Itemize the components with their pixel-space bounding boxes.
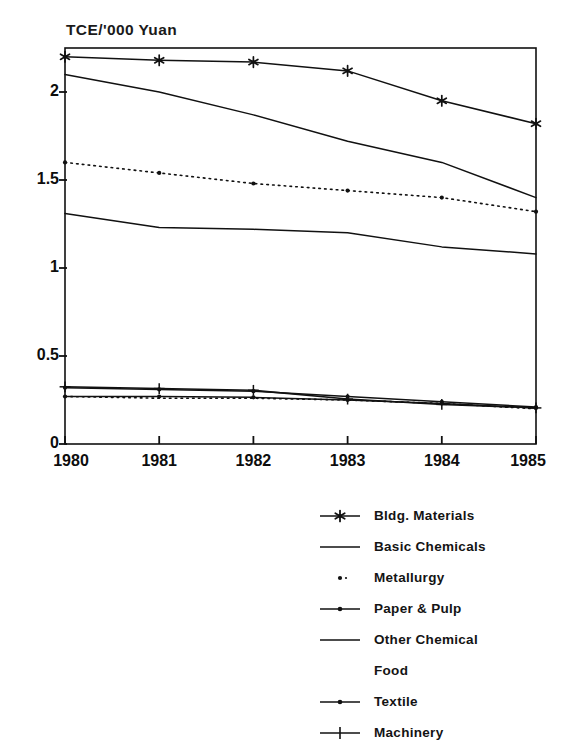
dot-marker	[157, 171, 161, 175]
legend-line-star-marker-icon	[318, 506, 362, 526]
x-tick-label: 1984	[424, 452, 460, 470]
plus-marker	[531, 403, 542, 414]
legend-item: Paper & Pulp	[318, 593, 580, 624]
chart-figure: TCE/'000 Yuan 21.510.50 1980198119821983…	[0, 0, 581, 753]
plus-marker	[60, 381, 71, 392]
plus-marker	[154, 383, 165, 394]
y-axis-tick-labels: 21.510.50	[0, 0, 59, 753]
series-line-other-chemical	[65, 213, 536, 253]
legend-item: Machinery	[318, 717, 580, 748]
legend-line-plain-icon	[318, 537, 362, 557]
y-tick-label: 1.5	[37, 170, 59, 188]
legend-item: Metallurgy	[318, 562, 580, 593]
y-axis-title: TCE/'000 Yuan	[66, 21, 177, 39]
x-tick-label: 1980	[53, 452, 89, 470]
legend-dot-marker-icon	[318, 568, 362, 588]
dot-marker	[346, 188, 350, 192]
y-tick-label: 1	[50, 258, 59, 276]
legend-item: Food	[318, 655, 580, 686]
legend-label: Other Chemical	[374, 632, 478, 647]
legend-item: Textile	[318, 686, 580, 717]
y-tick-label: 0	[50, 434, 59, 452]
dot-marker	[440, 196, 444, 200]
dot-marker	[534, 210, 538, 214]
legend-item: Bldg. Materials	[318, 500, 580, 531]
x-tick-label: 1981	[141, 452, 177, 470]
legend-item: Other Chemical	[318, 624, 580, 655]
plot-lines	[65, 48, 536, 444]
chart-legend: Bldg. MaterialsBasic ChemicalsMetallurgy…	[318, 500, 580, 748]
plus-marker	[342, 394, 353, 405]
y-tick-label: 2	[50, 82, 59, 100]
x-tick-label: 1982	[236, 452, 272, 470]
dot-marker	[63, 394, 67, 398]
dot-marker	[157, 394, 161, 398]
legend-line-dot-marker-icon	[318, 692, 362, 712]
legend-line-dot-marker-icon	[318, 599, 362, 619]
series-line-metallurgy	[65, 162, 536, 211]
plus-marker	[436, 399, 447, 410]
x-tick-label: 1983	[330, 452, 366, 470]
legend-label: Basic Chemicals	[374, 539, 486, 554]
legend-line-plain-icon	[318, 630, 362, 650]
legend-no-key-icon	[318, 661, 362, 681]
x-tick-label: 1985	[510, 452, 546, 470]
legend-label: Food	[374, 663, 408, 678]
series-line-bldg-materials	[65, 57, 536, 124]
legend-line-plus-marker-icon	[318, 723, 362, 743]
x-axis-tick-labels: 198019811982198319841985	[0, 452, 581, 478]
plus-marker	[248, 385, 259, 396]
legend-label: Machinery	[374, 725, 443, 740]
dot-marker	[63, 160, 67, 164]
legend-label: Textile	[374, 694, 418, 709]
dot-marker	[251, 395, 255, 399]
legend-item: Basic Chemicals	[318, 531, 580, 562]
legend-label: Bldg. Materials	[374, 508, 475, 523]
legend-label: Metallurgy	[374, 570, 445, 585]
series-line-basic-chemicals	[65, 74, 536, 197]
dot-marker	[251, 181, 255, 185]
legend-label: Paper & Pulp	[374, 601, 462, 616]
y-tick-label: 0.5	[37, 346, 59, 364]
plot-frame	[65, 48, 536, 444]
plot-area	[65, 48, 536, 444]
